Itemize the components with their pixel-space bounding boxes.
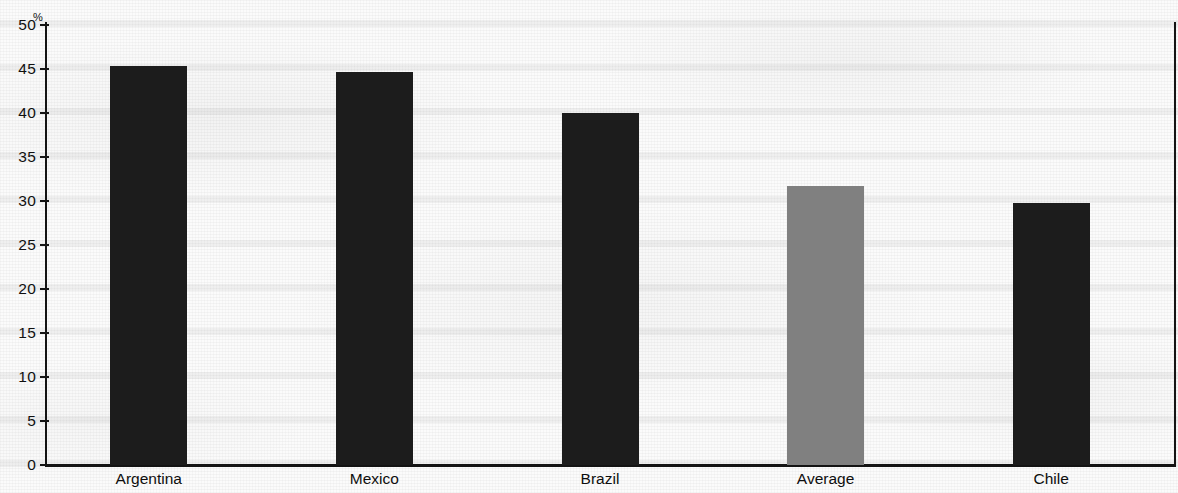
y-axis-tick-label: 30 xyxy=(4,193,36,209)
x-axis-label-chile: Chile xyxy=(961,470,1141,489)
bar-average xyxy=(787,186,864,465)
bar-argentina xyxy=(110,66,187,465)
x-axis-label-average: Average xyxy=(736,470,916,489)
y-axis-tick-label: 25 xyxy=(4,237,36,253)
x-axis-label-brazil: Brazil xyxy=(510,470,690,489)
y-axis-tick-label: 5 xyxy=(4,413,36,429)
y-axis-tick-label: 45 xyxy=(4,61,36,77)
x-axis-label-mexico: Mexico xyxy=(284,470,464,489)
x-axis-label-argentina: Argentina xyxy=(59,470,239,489)
y-axis-tick-label: 35 xyxy=(4,149,36,165)
bar-mexico xyxy=(336,72,413,465)
y-axis-tick-label: 10 xyxy=(4,369,36,385)
y-axis-tick-label: 15 xyxy=(4,325,36,341)
bar-chart: % 05101520253035404550 ArgentinaMexicoBr… xyxy=(0,0,1178,493)
bars-group xyxy=(46,22,1175,465)
bar-brazil xyxy=(562,113,639,465)
y-axis-tick-label: 40 xyxy=(4,105,36,121)
y-axis-tick-label: 0 xyxy=(4,457,36,473)
bar-chile xyxy=(1013,203,1090,465)
y-axis-tick-label: 20 xyxy=(4,281,36,297)
y-axis-tick-label: 50 xyxy=(4,17,36,33)
